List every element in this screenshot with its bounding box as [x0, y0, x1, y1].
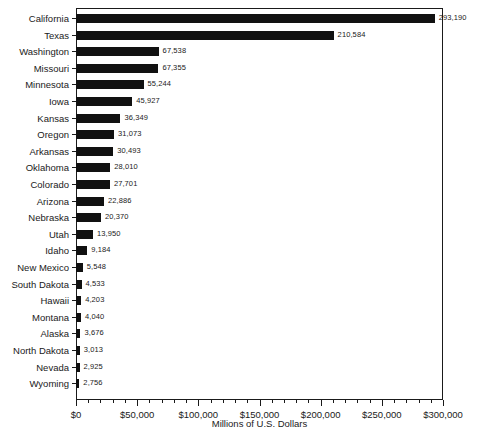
x-axis-minor-tick — [357, 400, 358, 403]
bar-value-label: 4,040 — [85, 311, 104, 322]
bar-chart: California293,190Texas210,584Washington6… — [0, 0, 477, 447]
bar — [76, 47, 159, 56]
x-axis-minor-tick — [235, 400, 236, 403]
bar-value-label: 4,533 — [86, 278, 105, 289]
bar-value-label: 30,493 — [117, 145, 141, 156]
x-axis-minor-tick — [272, 400, 273, 403]
bar-row: New Mexico5,548 — [76, 260, 443, 275]
category-label: Arkansas — [29, 144, 69, 159]
category-label: Texas — [44, 28, 69, 43]
bar-row: North Dakota3,013 — [76, 343, 443, 358]
category-label: Utah — [49, 227, 69, 242]
bar-value-label: 55,244 — [148, 78, 172, 89]
bar-value-label: 4,203 — [85, 294, 104, 305]
bar — [76, 296, 81, 305]
bar-value-label: 36,349 — [124, 112, 148, 123]
x-axis-minor-tick — [406, 400, 407, 403]
bar — [76, 280, 82, 289]
bar-value-label: 20,370 — [105, 211, 129, 222]
bar-row: Hawaii4,203 — [76, 293, 443, 308]
category-label: Nevada — [36, 360, 69, 375]
bar — [76, 180, 110, 189]
x-axis-minor-tick — [100, 400, 101, 403]
bar-row: Montana4,040 — [76, 310, 443, 325]
bar-row: Nebraska20,370 — [76, 210, 443, 225]
bar-row: Nevada2,925 — [76, 360, 443, 375]
category-label: South Dakota — [11, 277, 69, 292]
bar — [76, 64, 158, 73]
x-axis-major-tick — [260, 400, 261, 406]
bar-row: Idaho9,184 — [76, 243, 443, 258]
bar-row: Minnesota55,244 — [76, 77, 443, 92]
bar-value-label: 45,927 — [136, 95, 160, 106]
x-axis-minor-tick — [431, 400, 432, 403]
bar-value-label: 13,950 — [97, 228, 121, 239]
bar-value-label: 9,184 — [91, 244, 110, 255]
category-label: Oklahoma — [26, 160, 69, 175]
category-label: Idaho — [45, 243, 69, 258]
bar — [76, 363, 80, 372]
category-label: North Dakota — [13, 343, 69, 358]
category-label: Colorado — [30, 177, 69, 192]
x-axis-minor-tick — [308, 400, 309, 403]
bar-row: Washington67,538 — [76, 44, 443, 59]
bar-value-label: 31,073 — [118, 128, 142, 139]
category-label: Montana — [32, 310, 69, 325]
bar — [76, 130, 114, 139]
x-axis-major-tick — [198, 400, 199, 406]
bar-value-label: 3,676 — [84, 327, 103, 338]
bar-value-label: 27,701 — [114, 178, 138, 189]
bar-row: Wyoming2,756 — [76, 376, 443, 391]
x-axis-minor-tick — [394, 400, 395, 403]
category-label: Minnesota — [25, 77, 69, 92]
bar-row: Oklahoma28,010 — [76, 160, 443, 175]
category-label: Missouri — [34, 61, 69, 76]
x-axis-major-tick — [137, 400, 138, 406]
category-label: Kansas — [37, 111, 69, 126]
bar-row: California293,190 — [76, 11, 443, 26]
x-axis-minor-tick — [223, 400, 224, 403]
x-axis-major-tick — [382, 400, 383, 406]
category-label: Alaska — [40, 326, 69, 341]
bar — [76, 346, 80, 355]
bar — [76, 80, 144, 89]
bar — [76, 263, 83, 272]
x-axis-minor-tick — [149, 400, 150, 403]
x-axis-minor-tick — [125, 400, 126, 403]
category-label: New Mexico — [17, 260, 69, 275]
bar-row: Alaska3,676 — [76, 326, 443, 341]
category-label: California — [29, 11, 69, 26]
category-label: Arizona — [37, 194, 69, 209]
bar-value-label: 22,886 — [108, 195, 132, 206]
bar-value-label: 67,355 — [162, 62, 186, 73]
bar-row: Colorado27,701 — [76, 177, 443, 192]
category-label: Washington — [19, 44, 69, 59]
bar-value-label: 210,584 — [338, 29, 366, 40]
x-axis-minor-tick — [296, 400, 297, 403]
bar-row: Texas210,584 — [76, 28, 443, 43]
bar-row: Oregon31,073 — [76, 127, 443, 142]
bar-row: South Dakota4,533 — [76, 277, 443, 292]
bar — [76, 31, 334, 40]
bar-row: Arkansas30,493 — [76, 144, 443, 159]
x-axis-minor-tick — [88, 400, 89, 403]
bar-value-label: 28,010 — [114, 161, 138, 172]
x-axis-minor-tick — [333, 400, 334, 403]
bar — [76, 14, 435, 23]
category-label: Oregon — [37, 127, 69, 142]
x-axis-minor-tick — [113, 400, 114, 403]
bar — [76, 213, 101, 222]
x-axis-minor-tick — [186, 400, 187, 403]
x-axis-minor-tick — [419, 400, 420, 403]
bar-value-label: 3,013 — [84, 344, 103, 355]
bar — [76, 329, 80, 338]
bar-value-label: 293,190 — [439, 12, 467, 23]
plot-area: California293,190Texas210,584Washington6… — [76, 8, 443, 400]
category-label: Nebraska — [28, 210, 69, 225]
bar — [76, 246, 87, 255]
bar-value-label: 2,925 — [84, 361, 103, 372]
bar-value-label: 5,548 — [87, 261, 106, 272]
category-label: Iowa — [49, 94, 69, 109]
bar — [76, 230, 93, 239]
plot-top-border — [76, 8, 443, 9]
